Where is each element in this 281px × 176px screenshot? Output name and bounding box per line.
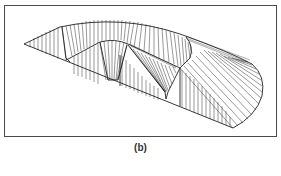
figure-caption: (b) (0, 142, 281, 153)
hatch-left-wedge (30, 27, 66, 60)
surface-outline (24, 22, 263, 128)
hatch-dense-ridge (130, 36, 250, 68)
hatch-upper-band (66, 20, 192, 66)
